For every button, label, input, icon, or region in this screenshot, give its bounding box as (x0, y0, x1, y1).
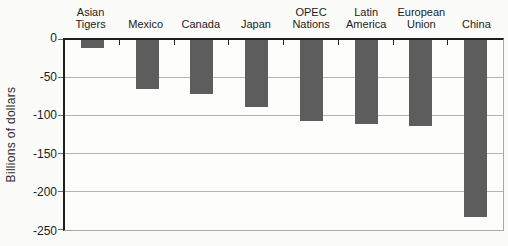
y-axis-tick-label: 0 (0, 32, 57, 44)
bar-mexico (136, 40, 159, 89)
trade-balance-bar-chart: Billions of dollars AsianTigersMexicoCan… (0, 0, 508, 246)
category-labels-row: AsianTigersMexicoCanadaJapanOPECNationsL… (63, 0, 504, 32)
gridline--100 (65, 115, 503, 116)
x-axis-tick (174, 40, 175, 45)
bar-china (464, 40, 487, 217)
y-axis-tick--100 (58, 115, 63, 116)
bar-japan (245, 40, 268, 107)
category-label: China (443, 19, 508, 31)
bar-latin-america (355, 40, 378, 124)
bar-opec-nations (300, 40, 323, 121)
y-axis-tick-label: -150 (0, 148, 57, 160)
gridline--200 (65, 191, 503, 192)
x-axis-tick (393, 40, 394, 45)
y-axis-tick-0 (58, 39, 63, 40)
y-axis-tick-label: -250 (0, 225, 57, 237)
x-axis-tick (283, 40, 284, 45)
y-axis-title: Billions of dollars (4, 65, 19, 205)
y-axis-tick-label: -200 (0, 186, 57, 198)
y-axis-tick-label: -50 (0, 71, 57, 83)
x-axis-tick (447, 40, 448, 45)
y-axis-tick-label: -100 (0, 109, 57, 121)
bar-canada (190, 40, 213, 94)
bar-asian-tigers (81, 40, 104, 48)
x-axis-tick (228, 40, 229, 45)
plot-area (63, 38, 504, 231)
y-axis-tick--150 (58, 153, 63, 154)
gridline--50 (65, 77, 503, 78)
y-axis-tick--200 (58, 191, 63, 192)
y-axis-tick--50 (58, 77, 63, 78)
y-axis-tick--250 (58, 229, 63, 230)
gridline--150 (65, 153, 503, 154)
x-axis-tick (338, 40, 339, 45)
x-axis-tick (119, 40, 120, 45)
bar-european-union (409, 40, 432, 126)
